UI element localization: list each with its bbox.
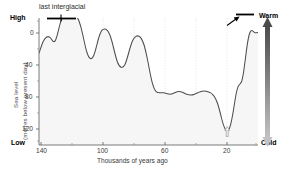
warm-cold-scale-arrow — [263, 17, 273, 147]
chart-svg — [0, 0, 285, 171]
chart-root: Sea level (metres below present day) Hig… — [0, 0, 285, 171]
